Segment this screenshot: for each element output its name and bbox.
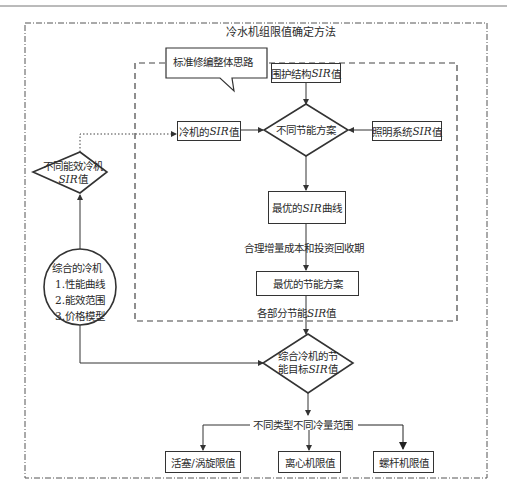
composite-chiller-item-2: 2.能效范围 <box>55 294 105 307</box>
chiller-sir-suffix: 值 <box>229 124 239 139</box>
lighting-sir-label: 照明系统 <box>372 124 412 139</box>
composite-target-line2: 能目标SIR值 <box>268 363 348 376</box>
diagram-title: 冷水机组限值确定方法 <box>226 26 336 39</box>
optimal-sir-curve-suffix: 曲线 <box>322 200 342 215</box>
optimal-sir-curve-italic: SIR <box>302 202 321 214</box>
diff-efficiency-line2: SIR值 <box>38 173 108 186</box>
lighting-sir-suffix: 值 <box>432 124 442 139</box>
type-range-label: 不同类型不同冷量范围 <box>253 419 353 432</box>
optimal-sir-curve-label: 最优的 <box>272 200 302 215</box>
optimal-sir-curve-box: 最优的SIR曲线 <box>268 191 346 224</box>
callout-bubble <box>166 48 267 91</box>
partial-sir-prefix: 各部分节能 <box>257 307 307 319</box>
centrifugal-limit-box: 离心机限值 <box>278 451 341 473</box>
envelope-sir-box: 围护结构SIR值 <box>271 63 341 83</box>
composite-chiller-item-1: 1.性能曲线 <box>55 278 105 291</box>
composite-chiller-item-3: 3.价格模型 <box>55 310 105 323</box>
optimal-plan-box: 最优的节能方案 <box>256 271 359 296</box>
screw-limit-box: 螺杆机限值 <box>373 451 434 473</box>
piston-scroll-limit-box: 活塞/涡旋限值 <box>165 451 241 473</box>
envelope-sir-label: 围护结构 <box>271 66 311 81</box>
chiller-sir-label: 冷机的 <box>179 124 209 139</box>
energy-plans-label: 不同节能方案 <box>266 124 346 137</box>
callout-text: 标准修编整体思路 <box>173 56 253 69</box>
envelope-sir-suffix: 值 <box>331 66 341 81</box>
diff-efficiency-suffix: 值 <box>78 173 88 185</box>
composite-target-italic: SIR <box>308 363 327 375</box>
partial-sir-label: 各部分节能SIR值 <box>257 307 336 320</box>
diff-efficiency-line1: 不同能效冷机 <box>38 160 108 173</box>
composite-chiller-title: 综合的冷机 <box>52 262 102 275</box>
composite-target-suffix: 值 <box>328 363 338 375</box>
envelope-sir-italic: SIR <box>311 67 330 79</box>
composite-target-prefix: 能目标 <box>278 363 308 375</box>
diff-efficiency-italic: SIR <box>58 173 77 185</box>
cost-payback-label: 合理增量成本和投资回收期 <box>244 242 364 255</box>
partial-sir-italic: SIR <box>307 307 326 319</box>
chiller-sir-italic: SIR <box>209 125 228 137</box>
chiller-sir-box: 冷机的SIR值 <box>177 121 241 141</box>
lighting-sir-italic: SIR <box>412 125 431 137</box>
partial-sir-suffix: 值 <box>326 307 336 319</box>
lighting-sir-box: 照明系统SIR值 <box>372 121 442 141</box>
composite-target-line1: 综合冷机的节 <box>268 350 348 363</box>
